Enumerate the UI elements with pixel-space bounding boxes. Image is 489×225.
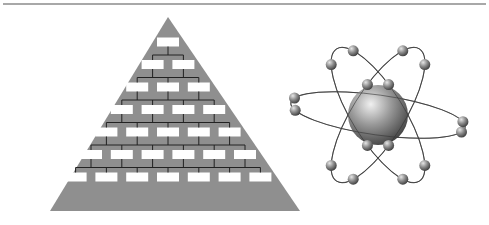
org-box <box>142 150 164 159</box>
electron <box>383 140 394 151</box>
electron <box>348 45 359 56</box>
electron <box>326 59 337 70</box>
org-box <box>157 128 179 137</box>
electron <box>289 93 300 104</box>
electron <box>397 45 408 56</box>
electron <box>457 116 468 127</box>
org-box <box>172 105 194 114</box>
atom-diagram <box>288 35 468 195</box>
org-box <box>142 60 164 69</box>
org-box <box>219 128 241 137</box>
electron <box>419 160 430 171</box>
org-box <box>111 105 133 114</box>
electron <box>383 79 394 90</box>
org-box <box>172 150 194 159</box>
diagram-canvas <box>0 0 489 225</box>
org-box <box>203 105 225 114</box>
org-box <box>111 150 133 159</box>
org-box <box>188 128 210 137</box>
electron <box>419 59 430 70</box>
org-box <box>95 128 117 137</box>
electron <box>290 105 301 116</box>
org-box <box>219 173 241 182</box>
org-box <box>188 83 210 92</box>
org-box <box>126 173 148 182</box>
org-box <box>157 38 179 47</box>
org-box <box>249 173 271 182</box>
org-box <box>172 60 194 69</box>
org-box <box>234 150 256 159</box>
electron <box>326 160 337 171</box>
org-box <box>65 173 87 182</box>
electron <box>397 174 408 185</box>
org-box <box>95 173 117 182</box>
electron <box>362 140 373 151</box>
org-box <box>203 150 225 159</box>
hierarchy-pyramid <box>50 17 300 211</box>
electron <box>362 79 373 90</box>
org-box <box>157 173 179 182</box>
org-box <box>188 173 210 182</box>
org-box <box>126 83 148 92</box>
electron <box>456 127 467 138</box>
electron <box>348 174 359 185</box>
org-box <box>126 128 148 137</box>
nucleus <box>348 85 408 145</box>
org-box <box>80 150 102 159</box>
org-box <box>142 105 164 114</box>
org-box <box>157 83 179 92</box>
